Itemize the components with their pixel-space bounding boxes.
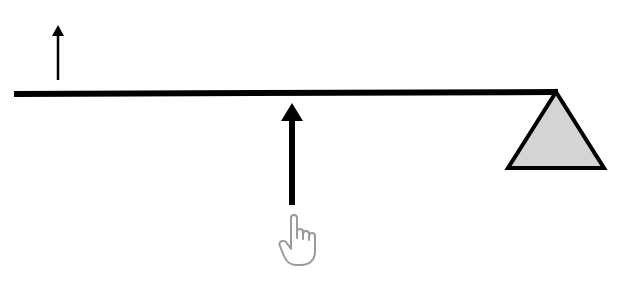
effort-arrow: [281, 103, 303, 205]
lever-bar: [14, 92, 558, 94]
lever-diagram: [0, 0, 627, 284]
hand-pointer-icon: [280, 215, 315, 265]
load-arrow: [52, 25, 64, 80]
fulcrum: [508, 92, 604, 168]
